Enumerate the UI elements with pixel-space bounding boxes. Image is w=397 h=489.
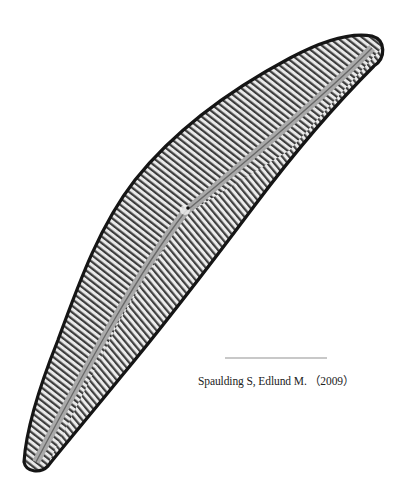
image-credit-caption: Spaulding S, Edlund M. （2009） (198, 372, 354, 388)
diatom-micrograph (0, 0, 397, 489)
diatom-valve (0, 0, 397, 489)
valve-face (0, 0, 397, 489)
scale-bar (225, 357, 327, 359)
